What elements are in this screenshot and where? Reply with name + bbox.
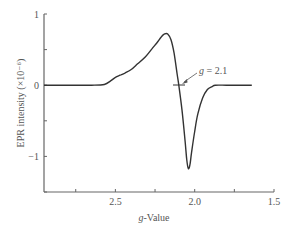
y-tick-label: 0 xyxy=(34,80,39,91)
arrow-head-icon xyxy=(182,79,188,84)
x-tick-label: 1.5 xyxy=(268,196,281,207)
annotation-label: g = 2.1 xyxy=(199,65,227,76)
y-axis-label: EPR intensity (×10⁻⁶) xyxy=(15,59,27,148)
plot-axes: 10−1 2.52.01.5 xyxy=(28,9,280,208)
x-axis-label-rest: -Value xyxy=(143,212,170,223)
annotation-rest: = 2.1 xyxy=(204,65,227,76)
x-axis-label: g-Value xyxy=(138,212,170,223)
g-value-annotation: g = 2.1 xyxy=(173,65,227,85)
x-tick-label: 2.0 xyxy=(188,196,201,207)
epr-spectrum-line xyxy=(44,33,252,168)
epr-spectrum-chart: 10−1 2.52.01.5 EPR intensity (×10⁻⁶) g-V… xyxy=(0,0,293,234)
y-tick-label: 1 xyxy=(34,9,39,20)
x-tick-label: 2.5 xyxy=(109,196,122,207)
y-tick-label: −1 xyxy=(28,151,39,162)
